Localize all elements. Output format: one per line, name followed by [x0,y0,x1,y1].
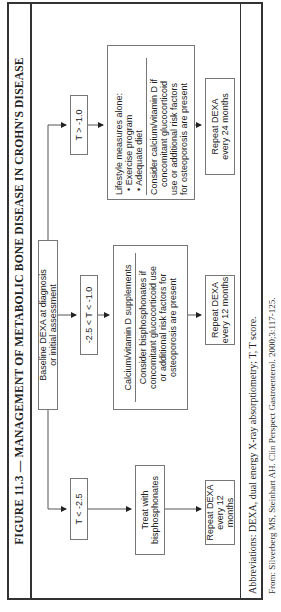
t-score-mid-node: -2.5 < T < -1.0 [80,275,98,355]
node-text: -2.5 < T < -1.0 [84,287,94,344]
node-text: for osteoporosis are present [179,83,189,195]
t-score-low-node: T < -2.5 [70,478,88,540]
node-heading: Lifestyle measures alone: [114,93,124,195]
node-text: or additional risk factors for [158,273,168,381]
source-citation: From: Silverberg MS, Steinhart AH. Clin … [263,2,281,600]
node-heading: Calcium/vitamin D supplements [123,264,133,390]
node-text: Consider calcium/vitamin D if [149,79,159,195]
node-text: T < -2.5 [74,493,84,524]
repeat-dexa-24mo-node: Repeat DEXA every 24 months [205,78,235,175]
figure: FIGURE 11.3 — MANAGEMENT OF METABOLIC BO… [0,0,281,612]
node-text: Baseline DEXA at diagnosis [38,269,48,381]
node-text: every 24 months [220,93,230,160]
node-text: every 12 months [220,277,230,344]
node-text: Repeat DEXA [210,282,220,338]
node-text: bisphosphonates [150,476,160,544]
node-text: concomitant glucocorticoid [159,81,169,195]
abbreviations-note: Abbreviations: DEXA, dual energy X-ray a… [240,2,263,600]
node-text: Repeat DEXA [210,98,220,154]
calcium-vitamin-d-node: Calcium/vitamin D supplements Consider b… [113,245,188,410]
baseline-dexa-node: Baseline DEXA at diagnosis or initial as… [38,240,58,410]
node-text: concomitant glucocorticoid use [148,266,158,389]
node-text: use or additional risk factors [169,83,179,195]
node-text: osteoporosis are present [168,278,178,377]
bullet-item: • Adequate diet [134,130,144,195]
node-text: T > -1.0 [74,109,84,140]
divider [135,253,136,403]
t-score-high-node: T > -1.0 [70,95,88,155]
bullet-item: • Exercise program [124,115,134,195]
node-text: Treat with [140,490,150,529]
treat-bisphosphonates-node: Treat with bisphosphonates [135,465,165,555]
node-text: Repeat DEXA [205,484,215,540]
repeat-dexa-12mo-low-node: Repeat DEXA every 12 months [205,480,235,545]
divider [146,58,147,195]
repeat-dexa-12mo-mid-node: Repeat DEXA every 12 months [205,275,235,345]
node-text: Consider bisphosphonates if [138,271,148,385]
node-text: every 12 months [215,481,235,544]
lifestyle-measures-node: Lifestyle measures alone: • Exercise pro… [107,45,195,200]
node-text: or initial assessment [48,284,58,366]
